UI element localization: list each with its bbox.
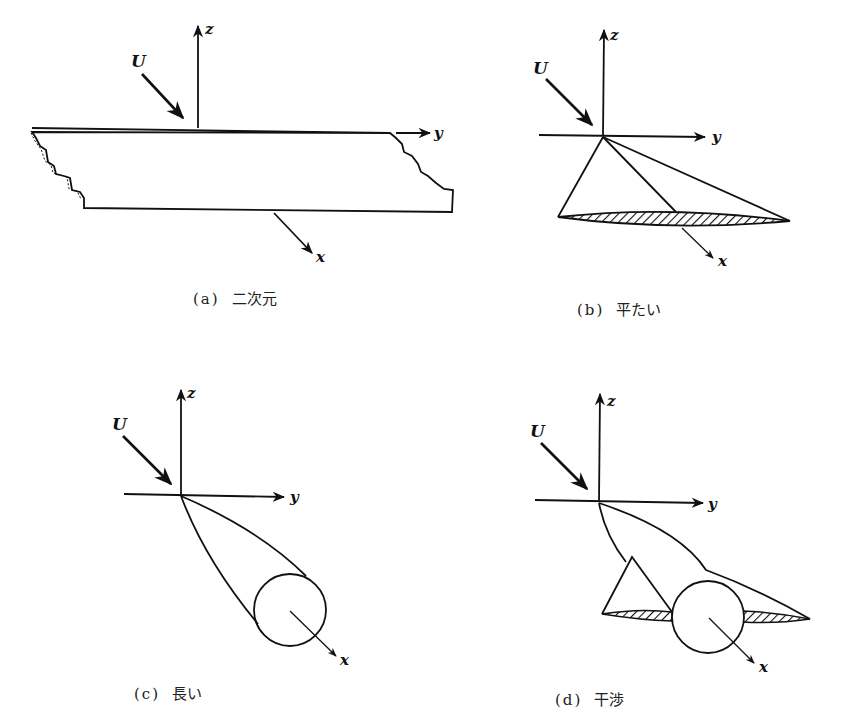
caption-panel-c: (c)長い — [134, 682, 202, 703]
y-axis-arrow — [124, 494, 284, 497]
flow-label-U: U — [112, 414, 128, 434]
panel-b-flat: z U y x — [533, 26, 790, 270]
y-axis-arrow — [535, 500, 703, 503]
x-axis-label: x — [717, 252, 728, 270]
wing-edge-right — [603, 137, 790, 221]
caption-panel-d: (d)干渉 — [555, 688, 624, 709]
wing-ridge — [603, 137, 676, 212]
x-axis-label: x — [758, 658, 769, 676]
z-axis-arrow — [603, 30, 604, 136]
wing-triangle — [602, 557, 672, 614]
caption-text: 干渉 — [594, 691, 624, 709]
panel-a-two-dimensional: z U y x — [31, 20, 453, 266]
caption-text: 二次元 — [232, 290, 277, 308]
x-axis-label: x — [339, 651, 350, 669]
y-axis-arrow — [539, 135, 705, 137]
flow-label-U: U — [530, 421, 546, 441]
caption-panel-b: (b)平たい — [577, 298, 661, 319]
y-axis-label: y — [707, 495, 718, 513]
flow-label-U: U — [131, 51, 147, 71]
hatched-cross-section — [558, 212, 790, 226]
z-axis-label: z — [204, 20, 214, 38]
z-axis-arrow — [599, 394, 600, 502]
x-axis-arrow — [274, 213, 312, 253]
flow-arrow-U — [541, 443, 587, 489]
x-axis-label: x — [315, 248, 326, 266]
caption-tag: (b) — [577, 301, 604, 319]
flow-arrow-U — [123, 436, 171, 484]
panel-d-interference: z U y x — [530, 392, 810, 676]
caption-panel-a: (a)二次元 — [193, 287, 277, 308]
y-axis-label: y — [433, 124, 444, 142]
x-axis-arrow — [682, 228, 713, 258]
caption-text: 平たい — [616, 301, 661, 319]
flow-label-U: U — [533, 58, 549, 78]
wing-edge-left — [558, 137, 603, 217]
caption-text: 長い — [172, 685, 202, 703]
wing-plate-shape — [32, 128, 453, 212]
y-axis-label: y — [289, 488, 300, 506]
caption-tag: (c) — [134, 685, 160, 703]
z-axis-label: z — [609, 26, 619, 44]
caption-tag: (d) — [555, 691, 582, 709]
y-axis-label: y — [711, 128, 722, 146]
hatched-wing-left — [602, 610, 672, 621]
z-axis-label: z — [186, 384, 196, 402]
x-axis-arrow — [290, 611, 336, 656]
flow-arrow-U — [546, 79, 592, 125]
flow-arrow-U — [142, 74, 183, 118]
diagram-canvas: z U y x z U y x z U y — [0, 0, 844, 728]
caption-tag: (a) — [193, 290, 220, 308]
panel-c-slender: z U y x — [112, 384, 350, 669]
z-axis-label: z — [606, 392, 616, 410]
